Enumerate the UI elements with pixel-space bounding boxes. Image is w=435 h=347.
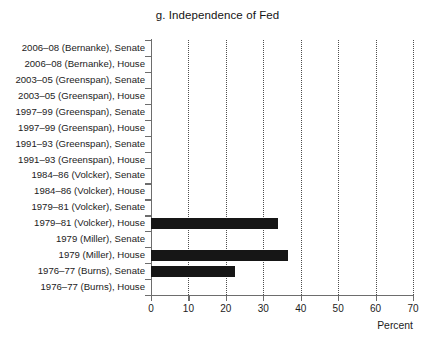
- y-axis-tick: [145, 183, 151, 184]
- y-axis-label: 1991–93 (Greenspan), House: [5, 155, 145, 165]
- x-axis-tick-label: 0: [138, 303, 164, 314]
- y-axis-tick: [145, 247, 151, 248]
- x-axis-tick: [376, 296, 377, 301]
- y-axis-tick: [145, 215, 151, 216]
- x-axis-tick: [301, 296, 302, 301]
- chart-figure: g. Independence of Fed 2006–08 (Bernanke…: [0, 0, 435, 347]
- x-axis-tick: [226, 296, 227, 301]
- y-axis-tick: [145, 136, 151, 137]
- x-axis-tick-label: 70: [400, 303, 426, 314]
- x-axis-tick: [413, 296, 414, 301]
- y-axis-tick: [145, 120, 151, 121]
- x-axis-line: [151, 295, 414, 296]
- y-axis-tick: [145, 199, 151, 200]
- y-axis-tick: [145, 263, 151, 264]
- y-axis-tick: [145, 40, 151, 41]
- gridline: [301, 40, 303, 295]
- x-axis-tick: [338, 296, 339, 301]
- y-axis-label: 1976–77 (Burns), Senate: [5, 266, 145, 276]
- y-axis-label: 2006–08 (Bernanke), House: [5, 59, 145, 69]
- y-axis-label: 1979–81 (Volcker), House: [5, 218, 145, 228]
- x-axis-tick-label: 10: [175, 303, 201, 314]
- y-axis-tick: [145, 231, 151, 232]
- y-axis-label: 1991–93 (Greenspan), Senate: [5, 139, 145, 149]
- y-axis-tick: [145, 72, 151, 73]
- x-axis-tick-label: 60: [363, 303, 389, 314]
- x-axis-tick-label: 30: [250, 303, 276, 314]
- bar: [151, 250, 288, 261]
- y-axis-label: 1997–99 (Greenspan), Senate: [5, 107, 145, 117]
- gridline: [413, 40, 415, 295]
- bar: [151, 218, 278, 229]
- y-axis-category-labels: 2006–08 (Bernanke), Senate2006–08 (Berna…: [3, 0, 145, 347]
- x-axis-tick: [263, 296, 264, 301]
- y-axis-tick: [145, 104, 151, 105]
- gridline: [338, 40, 340, 295]
- y-axis-tick: [145, 56, 151, 57]
- bar: [151, 266, 235, 277]
- y-axis-label: 1979–81 (Volcker), Senate: [5, 202, 145, 212]
- x-axis-tick: [151, 296, 152, 301]
- y-axis-label: 1979 (Miller), House: [5, 250, 145, 260]
- y-axis-tick: [145, 279, 151, 280]
- y-axis-label: 1984–86 (Volcker), Senate: [5, 170, 145, 180]
- y-axis-tick: [145, 88, 151, 89]
- y-axis-label: 2006–08 (Bernanke), Senate: [5, 43, 145, 53]
- x-axis-tick-label: 40: [288, 303, 314, 314]
- y-axis-label: 1984–86 (Volcker), House: [5, 186, 145, 196]
- x-axis-tick: [188, 296, 189, 301]
- y-axis-tick: [145, 168, 151, 169]
- y-axis-label: 2003–05 (Greenspan), House: [5, 91, 145, 101]
- y-axis-label: 1997–99 (Greenspan), House: [5, 123, 145, 133]
- gridline: [376, 40, 378, 295]
- x-axis-title: Percent: [313, 320, 413, 331]
- y-axis-label: 1979 (Miller), Senate: [5, 234, 145, 244]
- y-axis-tick: [145, 152, 151, 153]
- y-axis-label: 1976–77 (Burns), House: [5, 282, 145, 292]
- x-axis-tick-label: 20: [213, 303, 239, 314]
- x-axis-tick-label: 50: [325, 303, 351, 314]
- y-axis-label: 2003–05 (Greenspan), Senate: [5, 75, 145, 85]
